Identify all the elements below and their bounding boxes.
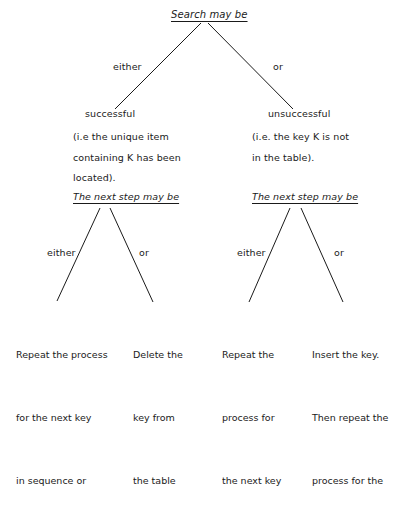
left-branch-label-or: or xyxy=(139,247,149,259)
leaf-insert-key: Insert the key. Then repeat the process … xyxy=(312,302,388,512)
branch-label-either: either xyxy=(113,61,142,73)
leaf-delete-key: Delete the key from the table Then repea… xyxy=(133,302,191,512)
outcome-successful-desc-line: located). xyxy=(73,172,116,184)
branch-label-or: or xyxy=(273,61,283,73)
leaf-repeat-process-unsuccessful: Repeat the process for the next key in s… xyxy=(222,302,286,512)
outcome-successful-title: successful xyxy=(85,108,135,120)
root-node-label: Search may be xyxy=(171,9,248,21)
outcome-unsuccessful-title: unsuccessful xyxy=(268,108,330,120)
outcome-successful-desc-line: (i.e the unique item xyxy=(73,131,169,143)
outcome-unsuccessful-desc-line: in the table). xyxy=(252,152,314,164)
outcome-successful-desc-line: containing K has been xyxy=(73,152,181,164)
next-step-label-right: The next step may be xyxy=(252,191,358,203)
left-branch-label-either: either xyxy=(47,247,76,259)
right-branch-label-either: either xyxy=(237,247,266,259)
right-branch-label-or: or xyxy=(334,247,344,259)
outcome-unsuccessful-desc-line: (i.e. the key K is not xyxy=(252,131,349,143)
leaf-repeat-process-successful: Repeat the process for the next key in s… xyxy=(16,302,113,512)
next-step-label-left: The next step may be xyxy=(73,191,179,203)
